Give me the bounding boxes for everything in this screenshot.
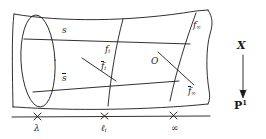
surface-right-edge xyxy=(207,10,212,104)
fiber-f-i-line xyxy=(108,19,123,106)
fiber-fbar-infinity-line xyxy=(158,52,194,85)
label-base-tick-lambda: λ xyxy=(34,124,40,133)
map-arrow-head xyxy=(240,90,246,98)
label-base-tick-infinity: ∞ xyxy=(171,124,179,133)
section-sbar-line xyxy=(33,81,179,92)
surface-top-edge xyxy=(14,10,208,20)
base-axis-line xyxy=(12,116,210,117)
label-fiber-f-infinity-bar: f∞ xyxy=(188,87,196,97)
cylinder-end-ellipse xyxy=(19,14,58,108)
surface-left-edge xyxy=(12,14,14,107)
figure-root: s s fi fi f∞ f∞ O λ ℓi ∞ X P1 xyxy=(0,0,266,139)
diagram-drawing xyxy=(0,0,266,139)
fiber-fbar-i-line xyxy=(82,58,116,81)
label-fiber-f-i-bar: fi xyxy=(101,62,106,72)
label-point-O: O xyxy=(151,57,158,66)
label-base-tick-ell-i: ℓi xyxy=(101,124,107,134)
label-source-X: X xyxy=(237,40,246,51)
label-section-s-bar: s xyxy=(62,74,67,83)
base-tick-infinity xyxy=(170,112,177,119)
label-target-P1: P1 xyxy=(234,100,247,111)
label-fiber-f-infinity: f∞ xyxy=(193,21,201,31)
label-section-s: s xyxy=(62,26,67,35)
label-fiber-f-i: fi xyxy=(105,45,110,55)
base-tick-ell-i xyxy=(101,113,108,119)
